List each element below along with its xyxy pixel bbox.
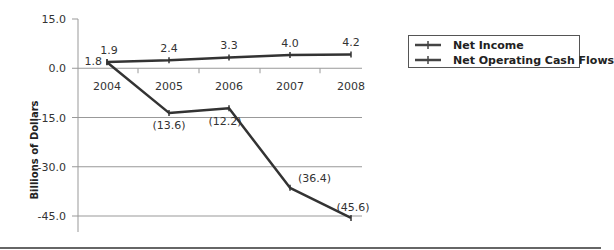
- x-axis: 20042005200620072008: [93, 68, 365, 93]
- x-tick-label: 2005: [155, 80, 183, 93]
- y-tick-label: -30.0: [38, 161, 66, 174]
- y-tick-label: 0.0: [49, 62, 67, 75]
- chart-legend: Net Income Net Operating Cash Flows: [408, 35, 580, 68]
- data-label: (13.6): [152, 119, 185, 132]
- data-label: 4.0: [281, 37, 299, 50]
- legend-label: Net Operating Cash Flows: [453, 54, 614, 67]
- y-axis-title: Billions of Dollars: [29, 100, 40, 199]
- data-label: (45.6): [336, 201, 369, 214]
- x-tick-label: 2007: [276, 80, 304, 93]
- x-tick-label: 2006: [215, 80, 243, 93]
- y-axis: 15.00.0-15.0-30.0-45.0: [38, 13, 78, 232]
- bottom-divider: [0, 247, 601, 249]
- legend-line-marker-icon: [415, 54, 441, 66]
- series-lines: [107, 51, 351, 221]
- x-tick-label: 2004: [93, 80, 121, 93]
- data-label: 3.3: [220, 39, 238, 52]
- legend-label: Net Income: [453, 39, 524, 52]
- y-tick-label: 15.0: [42, 13, 67, 26]
- x-tick-label: 2008: [337, 80, 365, 93]
- legend-item-net-operating-cash-flows: Net Operating Cash Flows: [415, 53, 614, 67]
- data-label: 2.4: [160, 42, 178, 55]
- y-tick-label: -45.0: [38, 210, 66, 223]
- data-label: 1.8: [85, 55, 103, 68]
- data-label: 1.9: [100, 44, 118, 57]
- legend-item-net-income: Net Income: [415, 38, 524, 52]
- y-tick-label: -15.0: [38, 112, 66, 125]
- data-label: 4.2: [342, 36, 360, 49]
- data-labels: 1.92.43.34.04.21.8(13.6)(12.2)(36.4)(45.…: [85, 36, 370, 214]
- data-label: (12.2): [208, 115, 241, 128]
- legend-line-marker-icon: [415, 39, 441, 51]
- data-label: (36.4): [298, 172, 331, 185]
